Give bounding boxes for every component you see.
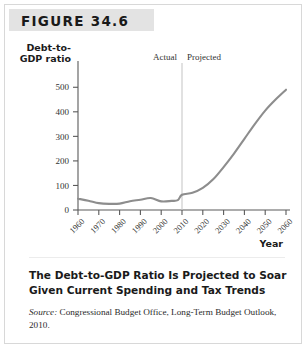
figure-container: FIGURE 34.6 0100200300400500 19601970198… <box>4 4 302 344</box>
chart-plot: 0100200300400500 19601970198019902000201… <box>5 35 301 250</box>
y-axis-ticks: 0100200300400500 <box>56 82 79 215</box>
x-tick-label: 2000 <box>151 216 170 235</box>
source-prefix: Source: <box>29 307 57 317</box>
x-tick-label: 2020 <box>192 216 211 235</box>
x-tick-label: 2010 <box>171 216 190 235</box>
projected-label: Projected <box>187 52 221 62</box>
actual-label: Actual <box>153 52 177 62</box>
x-axis-ticks: 1960197019801990200020102020203020402050… <box>67 210 294 235</box>
y-tick-label: 0 <box>65 205 70 215</box>
y-axis-title-line1: Debt-to- <box>26 42 71 53</box>
y-tick-label: 500 <box>56 82 70 92</box>
chart-svg: 0100200300400500 19601970198019902000201… <box>5 35 301 250</box>
caption-divider <box>29 257 285 258</box>
y-tick-label: 100 <box>56 181 70 191</box>
y-tick-label: 200 <box>56 156 70 166</box>
x-tick-label: 1980 <box>109 216 128 235</box>
x-tick-label: 2030 <box>213 216 232 235</box>
y-axis-title-line2: GDP ratio <box>20 53 72 64</box>
x-tick-label: 2040 <box>234 216 253 235</box>
x-tick-label: 2050 <box>255 216 274 235</box>
x-tick-label: 1990 <box>130 216 149 235</box>
source-text: Congressional Budget Office, Long-Term B… <box>29 307 276 329</box>
x-tick-label: 1970 <box>88 216 107 235</box>
caption-block: The Debt-to-GDP Ratio Is Projected to So… <box>29 268 287 331</box>
caption-title: The Debt-to-GDP Ratio Is Projected to So… <box>29 268 287 297</box>
x-axis-title: Year <box>258 238 283 249</box>
figure-number-band: FIGURE 34.6 <box>9 9 154 31</box>
x-tick-label: 2060 <box>275 216 294 235</box>
caption-source: Source: Congressional Budget Office, Lon… <box>29 306 287 331</box>
y-tick-label: 300 <box>56 132 70 142</box>
figure-number-label: FIGURE 34.6 <box>21 13 129 29</box>
y-tick-label: 400 <box>56 107 70 117</box>
x-tick-label: 1960 <box>67 216 86 235</box>
